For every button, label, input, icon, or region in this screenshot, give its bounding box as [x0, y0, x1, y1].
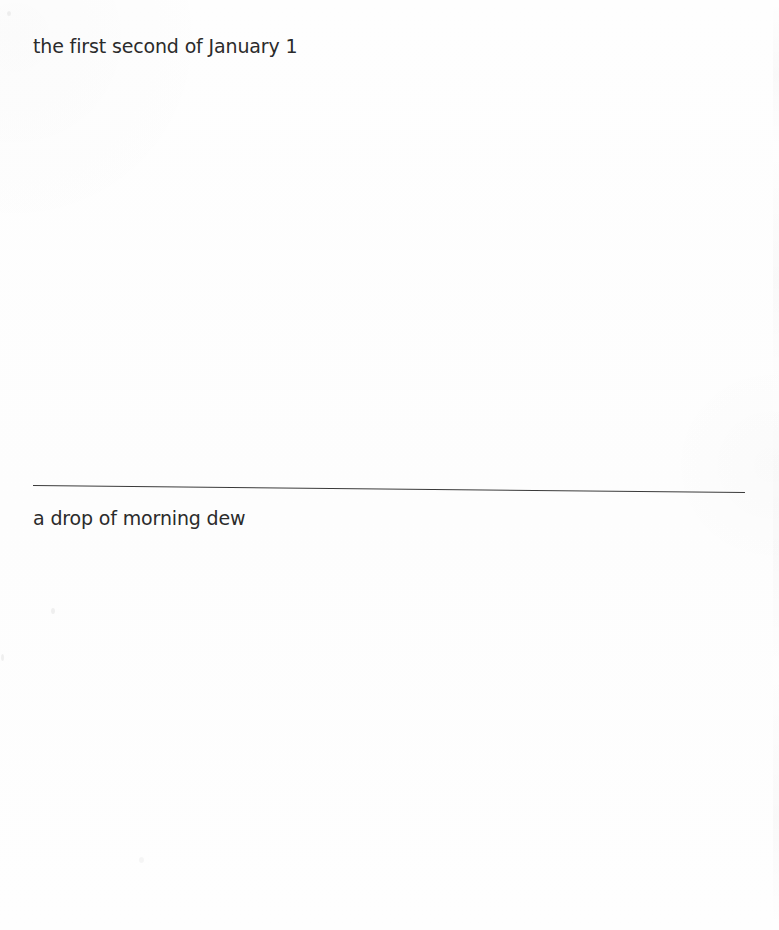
scan-speck: [51, 608, 55, 614]
poem-line-lower: a drop of morning dew: [33, 509, 245, 528]
divider-rule-stroke: [33, 485, 745, 493]
divider-rule: [33, 485, 745, 494]
poem-line-upper: the first second of January 1: [33, 37, 297, 56]
scan-speck: [139, 857, 144, 863]
scan-speck: [7, 11, 11, 16]
scan-speck: [1, 654, 4, 661]
paper-texture: [0, 0, 779, 930]
scan-edge-streak: [773, 0, 779, 930]
document-page: the first second of January 1 a drop of …: [0, 0, 779, 930]
